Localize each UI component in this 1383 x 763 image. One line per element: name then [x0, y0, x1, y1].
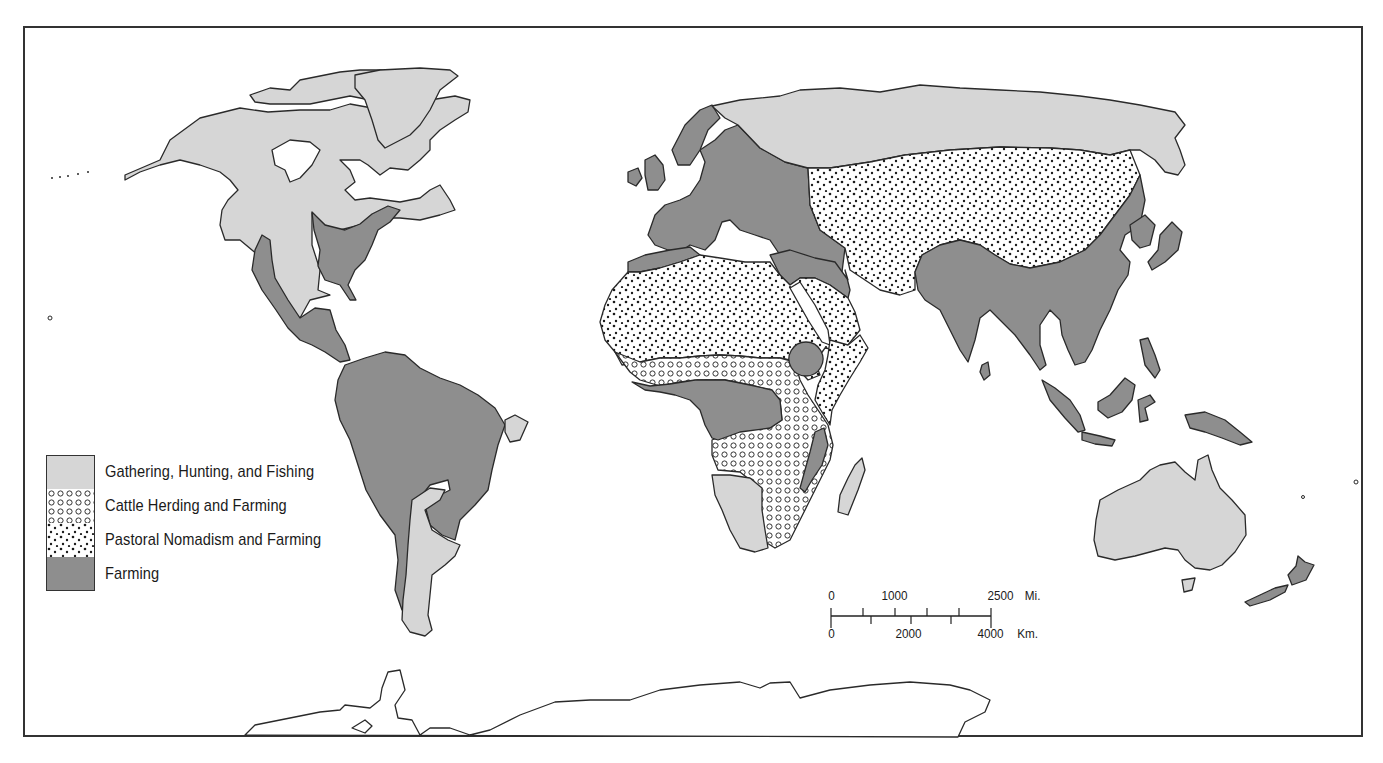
legend-label: Farming	[105, 564, 159, 584]
region-ethiopian-highlands-farming	[789, 342, 823, 376]
legend-swatch-circles	[46, 489, 95, 523]
pacific-island	[1354, 480, 1358, 484]
legend-swatch-light-gray	[46, 455, 95, 489]
legend-item-pastoral-nomadism: Pastoral Nomadism and Farming	[46, 523, 356, 557]
region-new-guinea-farming	[1185, 412, 1252, 445]
scale-mi-1000: 1000	[881, 588, 907, 603]
legend-label: Cattle Herding and Farming	[105, 496, 287, 516]
region-australia-gathering	[1094, 455, 1246, 570]
scale-km-unit: Km.	[1017, 626, 1038, 641]
hawaii-island	[48, 316, 52, 320]
new-caledonia-island	[1302, 496, 1305, 499]
region-brazil-northeast-gathering	[505, 415, 528, 442]
scale-mi-2500: 2500	[987, 588, 1013, 603]
aleutian-dot	[59, 176, 61, 178]
region-sulawesi-farming	[1138, 395, 1155, 422]
region-java-farming	[1082, 432, 1115, 446]
scale-km-4000: 4000	[977, 626, 1003, 641]
scale-mi-unit: Mi.	[1025, 588, 1041, 603]
region-new-zealand-farming	[1288, 556, 1314, 585]
legend-swatch-dark-gray	[46, 557, 95, 591]
scale-bar: 0 1000 2500 Mi. 0 2000 4000 Km.	[826, 588, 1056, 648]
scale-mi-0: 0	[828, 588, 835, 603]
legend-label: Pastoral Nomadism and Farming	[105, 530, 321, 550]
region-philippines-farming	[1140, 338, 1160, 378]
aleutian-dot	[87, 171, 89, 173]
region-southwest-africa-gathering	[712, 475, 768, 552]
aleutian-dot	[67, 175, 69, 177]
world-map	[0, 0, 1383, 763]
region-new-zealand-south-farming	[1245, 585, 1288, 606]
legend-label: Gathering, Hunting, and Fishing	[105, 462, 314, 482]
legend-item-cattle-herding: Cattle Herding and Farming	[46, 489, 356, 523]
region-borneo-farming	[1098, 378, 1135, 418]
aleutian-dot	[77, 173, 79, 175]
legend-item-gathering: Gathering, Hunting, and Fishing	[46, 455, 356, 489]
region-north-america-gathering	[125, 96, 470, 318]
region-ireland-farming	[628, 168, 642, 186]
map-legend: Gathering, Hunting, and Fishing Cattle H…	[46, 455, 356, 591]
legend-swatch-dots	[46, 523, 95, 557]
scale-km-2000: 2000	[895, 626, 921, 641]
region-sumatra-farming	[1042, 380, 1085, 432]
legend-item-farming: Farming	[46, 557, 356, 591]
region-tasmania-gathering	[1182, 578, 1195, 592]
scale-km-0: 0	[828, 626, 835, 641]
region-madagascar-gathering	[838, 458, 865, 515]
region-british-isles-farming	[645, 155, 665, 190]
aleutian-dot	[51, 177, 53, 179]
region-sri-lanka-farming	[980, 362, 990, 380]
